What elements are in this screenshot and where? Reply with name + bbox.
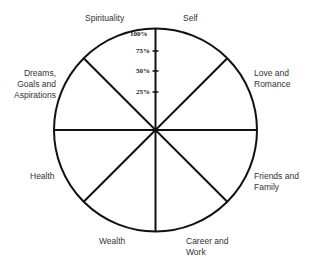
tick-25: 25% — [136, 88, 150, 96]
label-love: Love andRomance — [254, 68, 290, 90]
label-health: Health — [30, 171, 55, 182]
tick-50: 50% — [136, 67, 150, 75]
wheel-diagram — [0, 0, 313, 268]
label-self: Self — [183, 13, 198, 24]
label-dreams: Dreams,Goals andAspirations — [14, 68, 56, 101]
label-career: Career andWork — [186, 236, 229, 258]
tick-75: 75% — [136, 47, 150, 55]
label-wealth: Wealth — [99, 236, 125, 247]
tick-100: 100% — [130, 30, 148, 38]
label-friends: Friends andFamily — [254, 171, 299, 193]
label-spirituality: Spirituality — [85, 13, 124, 24]
